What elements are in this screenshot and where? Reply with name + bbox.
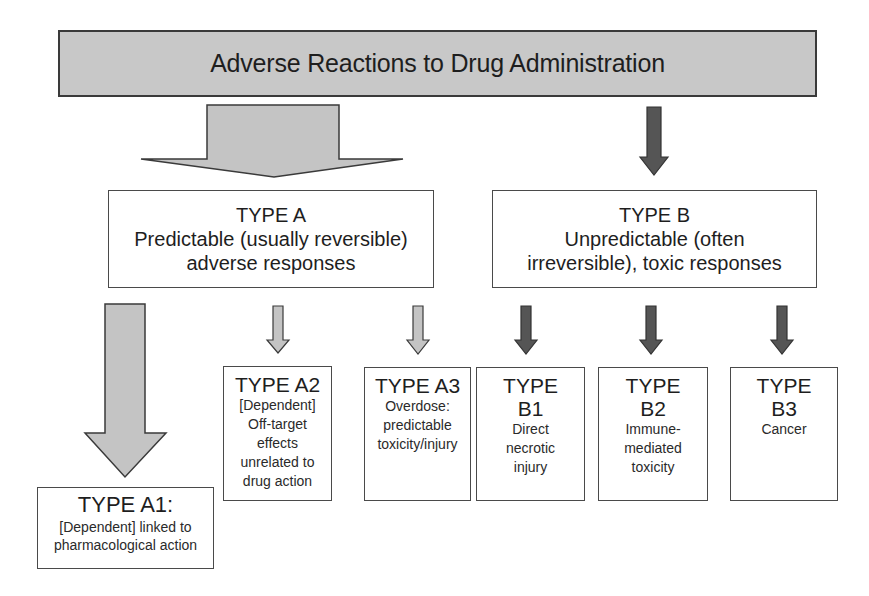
type-a2-desc-line: drug action: [224, 472, 331, 491]
arrow-down-icon: [640, 306, 662, 354]
type-b-box: TYPE B Unpredictable (often irreversible…: [492, 190, 817, 288]
type-a2-title: TYPE A2: [224, 373, 331, 396]
type-b3-desc-line: Cancer: [731, 420, 837, 439]
type-a-desc-line: Predictable (usually reversible): [109, 227, 433, 251]
type-a2-box: TYPE A2 [Dependent] Off-target effects u…: [223, 366, 332, 501]
type-a2-desc-line: [Dependent]: [224, 396, 331, 415]
arrow-down-icon: [85, 304, 166, 477]
type-b3-box: TYPE B3 Cancer: [730, 367, 838, 501]
type-b3-title: TYPE: [731, 374, 837, 397]
type-b1-box: TYPE B1 Direct necrotic injury: [476, 367, 585, 501]
type-a-box: TYPE A Predictable (usually reversible) …: [108, 190, 434, 288]
type-a2-desc-line: unrelated to: [224, 453, 331, 472]
type-b-desc-line: irreversible), toxic responses: [493, 251, 816, 275]
type-b1-desc-line: injury: [477, 458, 584, 477]
type-b2-title: TYPE: [599, 374, 707, 397]
type-a3-box: TYPE A3 Overdose: predictable toxicity/i…: [364, 367, 471, 501]
diagram-title-box: Adverse Reactions to Drug Administration: [58, 30, 817, 97]
type-a3-title: TYPE A3: [365, 374, 470, 397]
type-a2-desc-line: Off-target: [224, 415, 331, 434]
type-a3-desc-line: predictable: [365, 416, 470, 435]
arrow-down-icon: [771, 306, 793, 354]
type-a-desc-line: adverse responses: [109, 251, 433, 275]
type-b2-title: B2: [599, 397, 707, 420]
arrow-down-icon: [141, 105, 403, 177]
type-b-desc-line: Unpredictable (often: [493, 227, 816, 251]
type-a3-desc-line: Overdose:: [365, 397, 470, 416]
type-b2-box: TYPE B2 Immune- mediated toxicity: [598, 367, 708, 501]
type-a1-desc-line: pharmacological action: [38, 536, 213, 554]
type-a1-title: TYPE A1:: [38, 492, 213, 518]
type-b1-desc-line: Direct: [477, 420, 584, 439]
type-a2-desc-line: effects: [224, 434, 331, 453]
type-a1-box: TYPE A1: [Dependent] linked to pharmacol…: [37, 487, 214, 569]
type-b1-desc-line: necrotic: [477, 439, 584, 458]
type-b1-title: B1: [477, 397, 584, 420]
diagram-title: Adverse Reactions to Drug Administration: [210, 49, 665, 78]
type-b1-title: TYPE: [477, 374, 584, 397]
type-b2-desc-line: Immune-: [599, 420, 707, 439]
type-b2-desc-line: mediated: [599, 439, 707, 458]
type-a1-desc-line: [Dependent] linked to: [38, 518, 213, 536]
type-a3-desc-line: toxicity/injury: [365, 435, 470, 454]
type-a-title: TYPE A: [109, 203, 433, 227]
type-b2-desc-line: toxicity: [599, 458, 707, 477]
arrow-down-icon: [640, 107, 668, 175]
arrow-down-icon: [407, 306, 429, 354]
arrow-down-icon: [515, 306, 537, 354]
type-b3-title: B3: [731, 397, 837, 420]
arrow-down-icon: [267, 306, 289, 353]
type-b-title: TYPE B: [493, 203, 816, 227]
